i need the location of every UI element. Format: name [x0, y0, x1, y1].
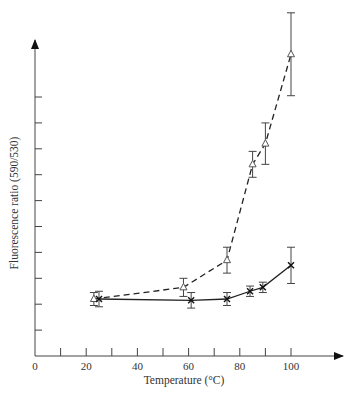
- series-line: [94, 54, 291, 299]
- series-cross-solid: [95, 247, 295, 308]
- fluorescence-temperature-chart: 020406080100 Temperature (°C) Fluorescen…: [0, 0, 354, 393]
- x-tick-label: 0: [32, 360, 38, 372]
- triangle-marker-icon: [180, 283, 187, 290]
- x-tick-label: 100: [283, 360, 300, 372]
- x-tick-label: 40: [132, 360, 144, 372]
- y-axis-title: Fluorescence ratio (590/530): [8, 136, 21, 269]
- x-tick-label: 20: [81, 360, 93, 372]
- y-axis-ticks: [35, 97, 42, 330]
- x-tick-label: 60: [183, 360, 195, 372]
- triangle-marker-icon: [262, 140, 269, 147]
- triangle-marker-icon: [288, 50, 295, 57]
- plot-series: [90, 13, 295, 308]
- x-axis-title: Temperature (°C): [144, 374, 225, 387]
- x-axis-ticks: [61, 348, 291, 356]
- x-axis-tick-labels: 020406080100: [32, 360, 300, 372]
- triangle-marker-icon: [224, 256, 231, 263]
- series-triangle-dashed: [90, 13, 295, 306]
- x-tick-label: 80: [234, 360, 246, 372]
